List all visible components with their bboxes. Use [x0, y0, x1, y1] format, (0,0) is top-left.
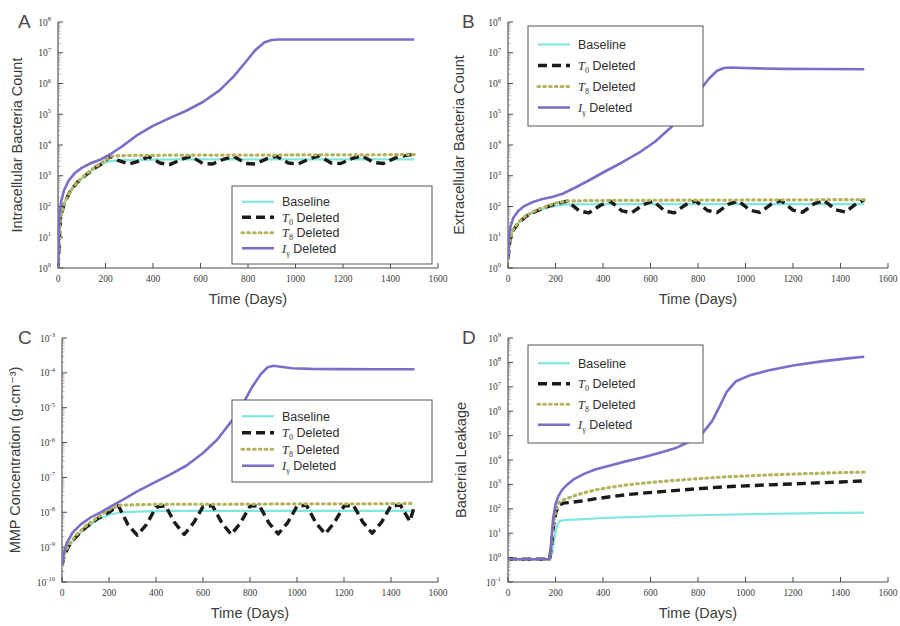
y-tick-label: 103 — [488, 477, 502, 490]
legend-label-0: Baseline — [578, 357, 626, 371]
y-tick-label: 10-6 — [40, 436, 56, 449]
panel-d-chart: D10-110010110210310410510610710810902004… — [450, 313, 900, 626]
x-tick-label: 0 — [56, 274, 61, 284]
y-tick-label: 107 — [38, 46, 52, 59]
x-tick-label: 800 — [243, 588, 258, 598]
x-tick-label: 1400 — [831, 274, 850, 284]
y-tick-label: 104 — [488, 138, 502, 151]
x-tick-label: 600 — [643, 274, 658, 284]
x-axis-title: Time (Days) — [659, 291, 737, 307]
series-line-2 — [508, 200, 864, 259]
series-line-1 — [508, 200, 864, 259]
x-tick-label: 200 — [98, 274, 113, 284]
y-tick-label: 106 — [38, 77, 52, 90]
x-tick-label: 600 — [196, 588, 211, 598]
legend-label-3: Iγ Deleted — [577, 101, 632, 117]
legend-label-3: Iγ Deleted — [281, 459, 336, 475]
legend-label-0: Baseline — [282, 410, 330, 424]
panel-letter-b: B — [462, 11, 475, 32]
x-tick-label: 400 — [596, 274, 611, 284]
y-tick-label: 106 — [488, 404, 502, 417]
panel-b-chart: B100101102103104105106107108020040060080… — [450, 0, 900, 313]
y-tick-label: 107 — [488, 46, 502, 59]
x-tick-label: 600 — [193, 274, 208, 284]
x-axis-title: Time (Days) — [209, 291, 287, 307]
y-tick-label: 104 — [38, 138, 52, 151]
series-line-0 — [508, 204, 864, 259]
panel-a: A100101102103104105106107108020040060080… — [0, 0, 450, 313]
panel-a-chart: A100101102103104105106107108020040060080… — [0, 0, 450, 313]
x-tick-label: 1600 — [429, 274, 448, 284]
x-tick-label: 400 — [596, 588, 611, 598]
y-tick-label: 107 — [488, 380, 502, 393]
panel-letter-a: A — [18, 11, 31, 32]
y-tick-label: 102 — [488, 502, 501, 515]
y-axis-title: Extracellular Bacteria Count — [451, 55, 467, 235]
y-tick-label: 10-4 — [40, 366, 56, 379]
y-tick-label: 100 — [38, 261, 52, 274]
y-tick-label: 10-1 — [486, 575, 501, 588]
x-tick-label: 1600 — [429, 588, 448, 598]
panel-c: C10-1010-910-810-710-610-510-410-3020040… — [0, 313, 450, 626]
x-tick-label: 800 — [691, 588, 706, 598]
y-tick-label: 108 — [488, 15, 502, 28]
y-tick-label: 105 — [38, 107, 52, 120]
x-tick-label: 600 — [643, 588, 658, 598]
x-tick-label: 0 — [506, 274, 511, 284]
x-tick-label: 1200 — [334, 274, 353, 284]
x-tick-label: 1000 — [286, 274, 305, 284]
y-axis-title: MMP Concentration (g·cm⁻³) — [7, 367, 23, 554]
x-tick-label: 1000 — [736, 274, 755, 284]
y-tick-label: 10-3 — [40, 331, 56, 344]
panel-b: B100101102103104105106107108020040060080… — [450, 0, 900, 313]
x-tick-label: 200 — [548, 274, 563, 284]
y-tick-label: 108 — [488, 355, 502, 368]
x-tick-label: 1400 — [831, 588, 850, 598]
y-tick-label: 103 — [488, 169, 502, 182]
x-tick-label: 1600 — [879, 274, 898, 284]
legend-label-0: Baseline — [282, 195, 330, 209]
y-tick-label: 105 — [488, 107, 502, 120]
x-tick-label: 800 — [691, 274, 706, 284]
y-tick-label: 10-7 — [40, 470, 56, 483]
y-tick-label: 102 — [38, 200, 51, 213]
x-tick-label: 400 — [149, 588, 164, 598]
y-tick-label: 101 — [488, 526, 501, 539]
x-tick-label: 200 — [102, 588, 117, 598]
y-tick-label: 105 — [488, 429, 502, 442]
x-tick-label: 0 — [506, 588, 511, 598]
legend-label-3: Iγ Deleted — [281, 242, 336, 258]
x-tick-label: 1200 — [784, 274, 803, 284]
x-tick-label: 1200 — [335, 588, 354, 598]
legend-label-0: Baseline — [578, 38, 626, 52]
y-tick-label: 10-5 — [40, 401, 56, 414]
y-tick-label: 104 — [488, 453, 502, 466]
panel-d: D10-110010110210310410510610710810902004… — [450, 313, 900, 626]
x-tick-label: 1000 — [736, 588, 755, 598]
x-tick-label: 200 — [548, 588, 563, 598]
x-tick-label: 1000 — [288, 588, 307, 598]
x-tick-label: 0 — [60, 588, 65, 598]
y-tick-label: 100 — [488, 551, 502, 564]
x-axis-title: Time (Days) — [659, 605, 737, 621]
y-tick-label: 101 — [488, 230, 501, 243]
figure-root: A100101102103104105106107108020040060080… — [0, 0, 900, 626]
y-axis-title: Bacterial Leakage — [453, 402, 469, 518]
x-tick-label: 1600 — [879, 588, 898, 598]
x-tick-label: 800 — [241, 274, 256, 284]
x-tick-label: 1400 — [382, 588, 401, 598]
y-tick-label: 106 — [488, 77, 502, 90]
x-tick-label: 400 — [146, 274, 161, 284]
y-tick-label: 10-8 — [40, 505, 56, 518]
y-axis-title: Intracellular Bacteria Count — [9, 58, 25, 233]
y-tick-label: 103 — [38, 169, 52, 182]
y-tick-label: 10-10 — [37, 575, 56, 588]
y-tick-label: 100 — [488, 261, 502, 274]
panel-letter-d: D — [462, 327, 476, 348]
x-axis-title: Time (Days) — [211, 605, 289, 621]
panel-c-chart: C10-1010-910-810-710-610-510-410-3020040… — [0, 313, 450, 626]
legend-label-3: Iγ Deleted — [577, 418, 632, 434]
y-tick-label: 108 — [38, 15, 52, 28]
y-tick-label: 109 — [488, 331, 502, 344]
y-tick-label: 102 — [488, 200, 501, 213]
